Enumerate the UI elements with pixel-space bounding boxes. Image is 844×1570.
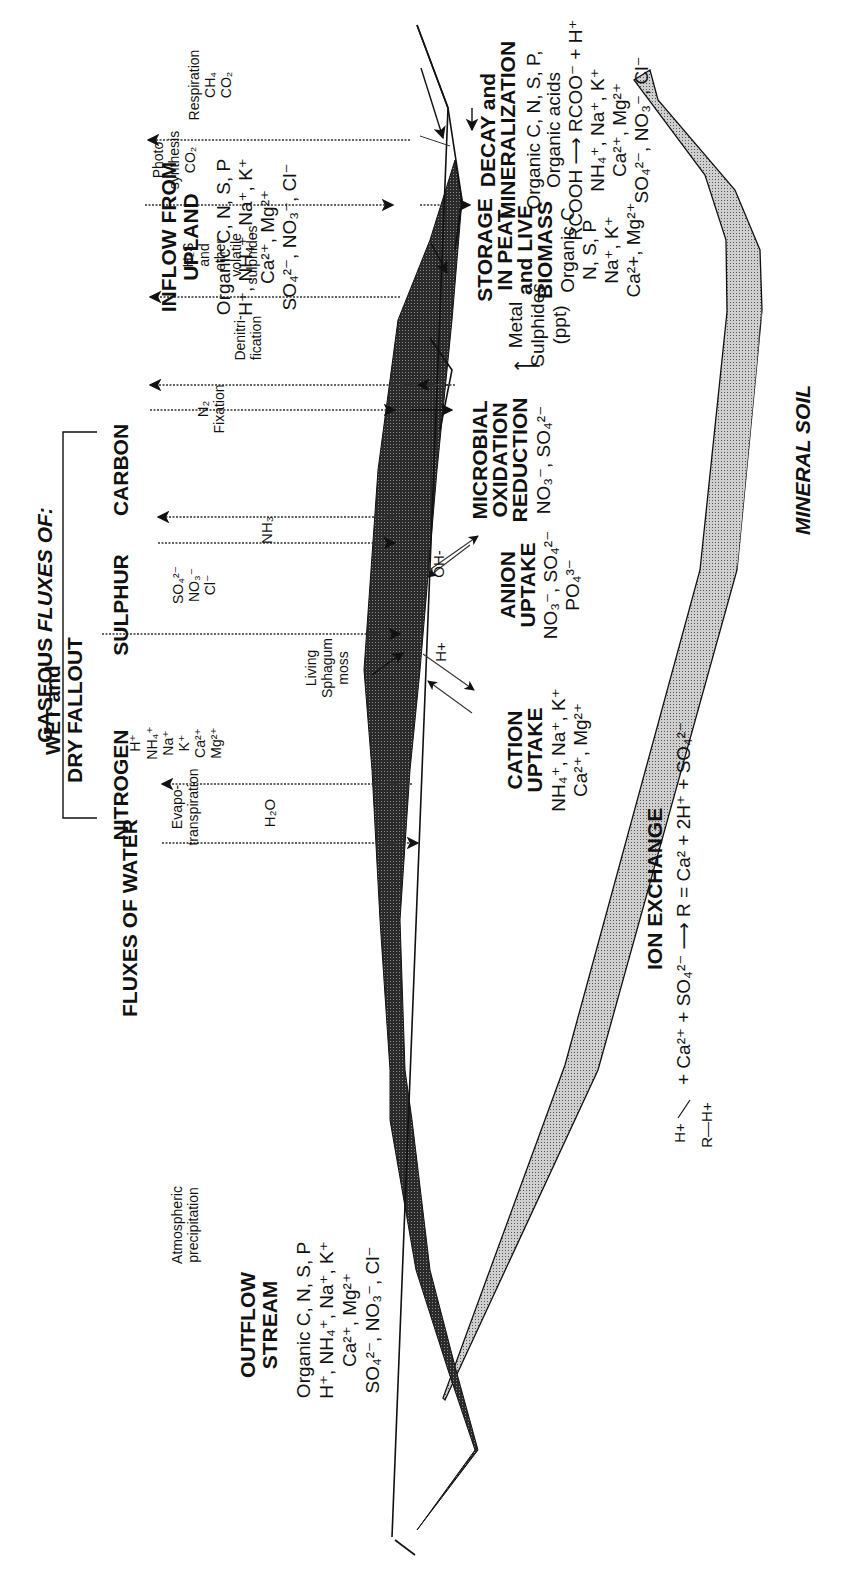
respiration-label-3: CO₂ xyxy=(218,72,234,98)
decay-line-2: Organic acids xyxy=(543,72,564,188)
inflow-line-4: SO₄²⁻, NO₃⁻, Cl⁻ xyxy=(279,164,300,311)
cation-heading-2: UPTAKE xyxy=(523,708,546,793)
anion-line-2: PO₄³⁻ xyxy=(562,559,583,611)
fallout-section: WET and DRY FALLOUT H⁺ NH₄⁺ Na⁺ K⁺ Ca²⁺ … xyxy=(41,566,224,783)
outflow-heading-1: OUTFLOW xyxy=(236,1272,259,1378)
sulphur-heading: SULPHUR xyxy=(109,554,132,656)
cation-in-arrow xyxy=(428,681,472,713)
inflow-upland-line xyxy=(395,1540,415,1555)
inflow-line-3: Ca²⁺, Mg²⁺ xyxy=(257,190,278,284)
sulphides-label-1: Metal xyxy=(505,302,526,348)
anion-line-1: NO₃⁻, SO₄²⁻ xyxy=(540,531,561,639)
inflow-heading-line-1: INFLOW FROM xyxy=(157,162,180,312)
h2o-label: H₂O xyxy=(261,799,278,827)
respiration-label-2: CH₄ xyxy=(202,72,218,98)
respiration-label-1: Respiration xyxy=(186,50,202,121)
inflow-line-2: H⁺, NH₄⁺, Na⁺, K⁺ xyxy=(235,158,256,316)
decay-heading-2: MINERALIZATION xyxy=(496,41,519,219)
resin-bottom-label: R—H+ xyxy=(698,1102,715,1148)
mineral-soil-label: MINERAL SOIL xyxy=(791,385,814,535)
fixation-label: Fixation xyxy=(211,384,227,433)
fallout-cation-5: Ca²⁺ xyxy=(192,728,208,758)
evapotranspiration-label-2: transpiration xyxy=(185,768,201,845)
outflow-line-3: Ca²⁺, Mg²⁺ xyxy=(339,1273,360,1367)
denitrification-label-1: Denitri- xyxy=(232,315,248,360)
gaseous-heading-prefix: GASEOUS xyxy=(33,632,56,743)
outflow-heading-2: STREAM xyxy=(258,1281,281,1370)
nitrogen-heading: NITROGEN xyxy=(109,730,132,841)
microbial-section: MICROBIAL OXIDATION REDUCTION NO₃⁻, SO₄²… xyxy=(468,283,570,522)
decay-line-6: SO₄²⁻, NO₃⁻, Cl⁻ xyxy=(631,57,652,204)
water-heading: FLUXES OF WATER xyxy=(118,819,141,1017)
ion-exchange-equation: + Ca²⁺ + SO₄²⁻ ⟶ R = Ca² + 2H⁺ + SO₄²⁻ xyxy=(673,722,694,1085)
inflow-heading-line-2: UPLAND xyxy=(179,193,202,281)
fallout-cation-4: K⁺ xyxy=(176,735,192,752)
inflow-arrow xyxy=(421,68,443,138)
moss-label-1: Living xyxy=(303,650,319,687)
storage-line-4: Ca²+, Mg²⁺ xyxy=(623,202,644,297)
storage-heading-4: BIOMASS xyxy=(533,201,556,299)
anion-uptake-section: ANION UPTAKE NO₃⁻, SO₄²⁻ PO₄³⁻ OH- xyxy=(430,531,583,639)
decay-line-4: NH₄⁺, Na⁺, K⁺ xyxy=(587,68,608,191)
oh-minus-label: OH- xyxy=(430,550,447,578)
gaseous-heading: GASEOUS FLUXES OF: xyxy=(33,507,56,743)
precipitation-label-1: Atmospheric xyxy=(169,1186,185,1264)
resin-top-label: H+ xyxy=(671,1123,688,1143)
fallout-anion-3: Cl⁻ xyxy=(202,575,218,596)
outflow-line-4: SO₄²⁻, NO₃⁻, Cl⁻ xyxy=(362,1247,383,1394)
fallout-cation-6: Mg²⁺ xyxy=(208,727,224,759)
inflow-line-1: Organic C, N, S, P xyxy=(213,159,234,315)
decay-line-3: RCOOH ⟶ RCOO⁻ + H⁺ xyxy=(565,20,586,241)
ion-exchange-heading: ION EXCHANGE xyxy=(643,808,666,970)
decay-line-1: Organic C, N, S, P, xyxy=(523,50,544,209)
microbial-heading-3: REDUCTION xyxy=(508,398,531,523)
carbon-heading: CARBON xyxy=(109,424,132,516)
gaseous-heading-italic: FLUXES OF: xyxy=(33,507,56,632)
decay-line-5: Ca²⁺, Mg²⁺ xyxy=(609,83,630,177)
nh3-label: NH₃ xyxy=(258,516,275,544)
respiration-link xyxy=(420,136,450,146)
h-plus-label: H+ xyxy=(432,642,449,662)
precipitation-label-2: precipitation xyxy=(185,1187,201,1263)
cation-line-1: NH₄⁺, Na⁺, K⁺ xyxy=(548,688,569,811)
moss-label-3: moss xyxy=(335,651,351,684)
fallout-anion-2: NO₃⁻ xyxy=(186,568,202,602)
upland-slope-line xyxy=(417,25,448,108)
outflow-section: OUTFLOW OUTFLOW STREAM Organic C, N, S, … xyxy=(0,1241,383,1399)
cation-uptake-section: CATION UPTAKE NH₄⁺, Na⁺, K⁺ Ca²⁺, Mg²⁺ H… xyxy=(432,642,591,812)
anion-heading-2: UPTAKE xyxy=(516,543,539,628)
storage-line-3: Na⁺, K⁺ xyxy=(601,216,622,284)
microbial-reactants: NO₃⁻, SO₄²⁻ xyxy=(533,406,554,514)
outflow-line-2: H⁺, NH₄⁺, Na⁺, K⁺ xyxy=(316,1241,337,1399)
denitrification-label-2: fication xyxy=(248,316,264,360)
n2-label: N₂ xyxy=(194,400,211,417)
cation-line-2: Ca²⁺, Mg²⁺ xyxy=(570,703,591,797)
evapotranspiration-label-1: Evapo- xyxy=(169,784,185,829)
moss-label-2: Sphagum xyxy=(319,638,335,698)
resin-bond xyxy=(678,1100,690,1118)
fallout-anion-1: SO₄²⁻ xyxy=(170,566,186,604)
outflow-line-1: Organic C, N, S, P xyxy=(293,1242,314,1398)
diagram-canvas: OUTFLOW OUTFLOW STREAM Organic C, N, S, … xyxy=(0,0,844,1570)
inflow-block: INFLOW FROM UPLAND Organic C, N, S, P H⁺… xyxy=(157,158,300,316)
fallout-cation-2: NH₄⁺ xyxy=(144,726,160,759)
fallout-cation-3: Na⁺ xyxy=(160,730,176,755)
sulphides-label-3: (ppt) xyxy=(549,305,570,344)
fallout-heading-2: DRY FALLOUT xyxy=(63,637,86,783)
photosynthesis-label-3: CO₂ xyxy=(182,147,198,173)
